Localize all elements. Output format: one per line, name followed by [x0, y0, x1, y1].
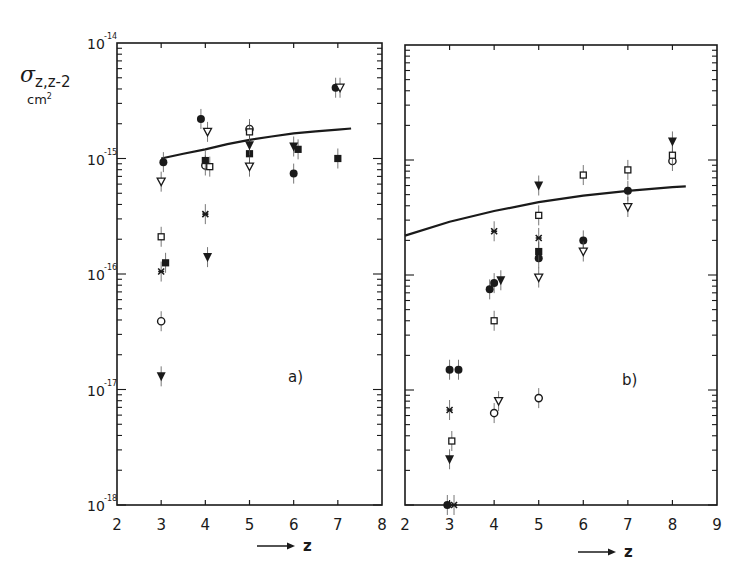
data-point-open-triangle-down — [495, 398, 503, 406]
data-point-filled-circle — [446, 366, 454, 374]
x-tick-label: 5 — [245, 516, 255, 534]
panel-b: 23456789b)z — [400, 45, 722, 561]
data-point-filled-circle — [159, 158, 167, 166]
y-tick-exponent: -16 — [104, 263, 117, 272]
panel-label: a) — [288, 368, 303, 386]
theory-curve — [161, 129, 351, 159]
data-point-open-square — [158, 234, 164, 240]
x-axis-label: z — [624, 543, 633, 561]
data-point-filled-circle — [443, 501, 451, 509]
y-tick-label: 10 — [87, 498, 105, 514]
x-tick-label: 9 — [712, 516, 722, 534]
y-tick-label: 10 — [87, 383, 105, 399]
data-point-filled-triangle-down — [534, 182, 543, 191]
data-point-open-triangle-down — [624, 204, 632, 212]
x-tick-label: 5 — [534, 516, 544, 534]
data-point-filled-triangle-down — [445, 455, 454, 464]
data-point-open-circle — [535, 395, 542, 402]
y-tick-label: 10 — [87, 267, 105, 283]
y-tick-exponent: -17 — [104, 379, 117, 388]
data-point-filled-square — [535, 248, 542, 255]
data-point-filled-square — [162, 259, 169, 266]
data-point-open-square — [625, 167, 631, 173]
arrow-head-icon — [287, 543, 295, 550]
x-tick-label: 4 — [489, 516, 499, 534]
x-tick-label: 7 — [623, 516, 633, 534]
data-point-filled-triangle-down — [157, 372, 166, 381]
data-point-open-triangle-down — [204, 128, 212, 136]
data-point-open-square — [491, 318, 497, 324]
x-tick-label: 8 — [377, 516, 387, 534]
theory-curve — [405, 186, 686, 235]
y-tick-exponent: -18 — [104, 494, 117, 503]
data-point-open-circle — [158, 318, 165, 325]
x-tick-label: 6 — [289, 516, 299, 534]
y-tick-label: 10 — [87, 152, 105, 168]
y-tick-exponent: -14 — [104, 32, 117, 41]
data-point-filled-triangle-down — [203, 253, 212, 262]
data-point-open-square — [449, 438, 455, 444]
data-point-filled-circle — [490, 279, 498, 287]
data-point-open-square — [580, 172, 586, 178]
data-point-filled-triangle-down — [668, 137, 677, 146]
x-tick-label: 4 — [201, 516, 211, 534]
arrow-head-icon — [608, 549, 616, 556]
x-tick-label: 6 — [579, 516, 589, 534]
plot-frame — [117, 43, 382, 505]
data-point-open-square — [247, 129, 253, 135]
x-axis-label: z — [303, 537, 312, 555]
data-point-filled-triangle-down — [245, 141, 254, 150]
x-tick-label: 3 — [445, 516, 455, 534]
data-point-filled-circle — [197, 115, 205, 123]
data-point-open-triangle-down — [246, 163, 254, 171]
data-point-open-square — [207, 164, 213, 170]
data-point-open-triangle-down — [157, 178, 165, 186]
x-tick-label: 8 — [668, 516, 678, 534]
chart-canvas: 234567810-1410-1510-1610-1710-18a)z23456… — [0, 0, 748, 580]
x-tick-label: 3 — [156, 516, 166, 534]
data-point-open-circle — [491, 409, 498, 416]
data-point-filled-circle — [624, 187, 632, 195]
panel-a: 234567810-1410-1510-1610-1710-18a)z — [87, 32, 387, 555]
y-tick-exponent: -15 — [104, 148, 117, 157]
data-point-filled-circle — [454, 366, 462, 374]
y-tick-label: 10 — [87, 36, 105, 52]
data-point-filled-circle — [290, 170, 298, 178]
data-point-filled-square — [334, 155, 341, 162]
x-tick-label: 2 — [112, 516, 122, 534]
data-point-open-square — [536, 212, 542, 218]
data-point-open-triangle-down — [579, 248, 587, 256]
x-tick-label: 7 — [333, 516, 343, 534]
panel-label: b) — [622, 371, 637, 389]
data-point-open-triangle-down — [535, 274, 543, 282]
data-point-open-square — [669, 152, 675, 158]
x-tick-label: 2 — [400, 516, 410, 534]
